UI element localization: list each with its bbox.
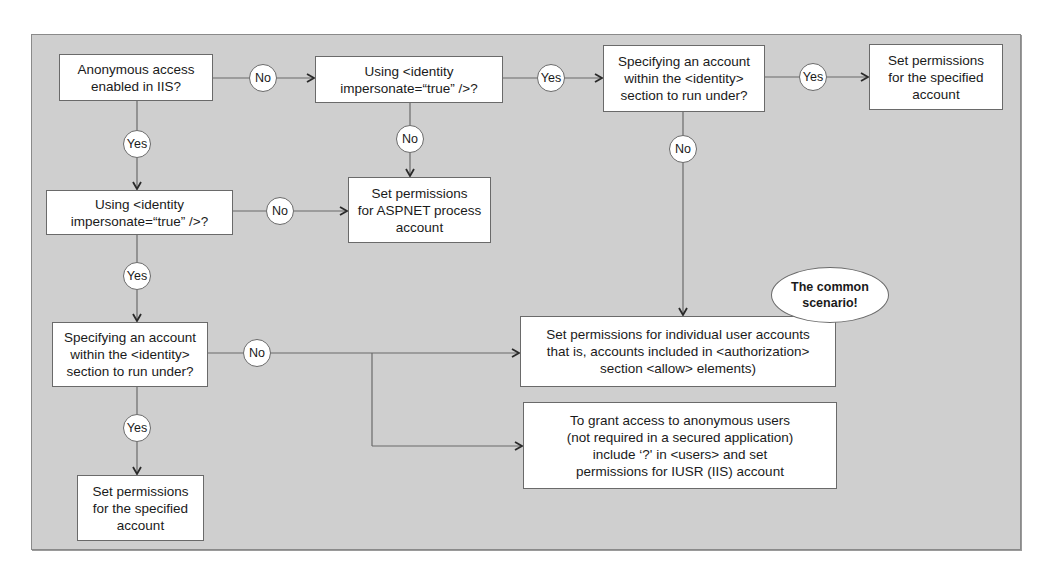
edge-label-no: No — [669, 135, 697, 163]
action-grant-anonymous-access: To grant access to anonymous users (not … — [523, 402, 837, 489]
decision-specify-account-left: Specifying an account within the <identi… — [52, 322, 208, 387]
edge-label-no: No — [243, 339, 271, 367]
action-set-individual-user-accounts: Set permissions for individual user acco… — [520, 316, 836, 387]
edge-label-yes: Yes — [123, 414, 151, 442]
action-set-specified-account-bottom: Set permissions for the specified accoun… — [77, 475, 204, 541]
common-scenario-callout: The common scenario! — [771, 267, 889, 323]
action-set-specified-account-top: Set permissions for the specified accoun… — [869, 44, 1003, 110]
decision-specify-account-top: Specifying an account within the <identi… — [603, 45, 765, 112]
edge-label-no: No — [396, 125, 424, 153]
edge-label-yes: Yes — [123, 130, 151, 158]
decision-impersonate-top: Using <identity impersonate=“true” />? — [315, 56, 503, 103]
decision-anonymous-access: Anonymous access enabled in IIS? — [59, 54, 213, 101]
edge-label-yes: Yes — [537, 64, 565, 92]
decision-impersonate-left: Using <identity impersonate=“true” />? — [46, 190, 233, 235]
edge-label-yes: Yes — [799, 63, 827, 91]
action-set-aspnet-account: Set permissions for ASPNET process accou… — [348, 177, 491, 243]
edge-label-yes: Yes — [123, 262, 151, 290]
edge-label-no: No — [249, 64, 277, 92]
edge-label-no: No — [266, 197, 294, 225]
